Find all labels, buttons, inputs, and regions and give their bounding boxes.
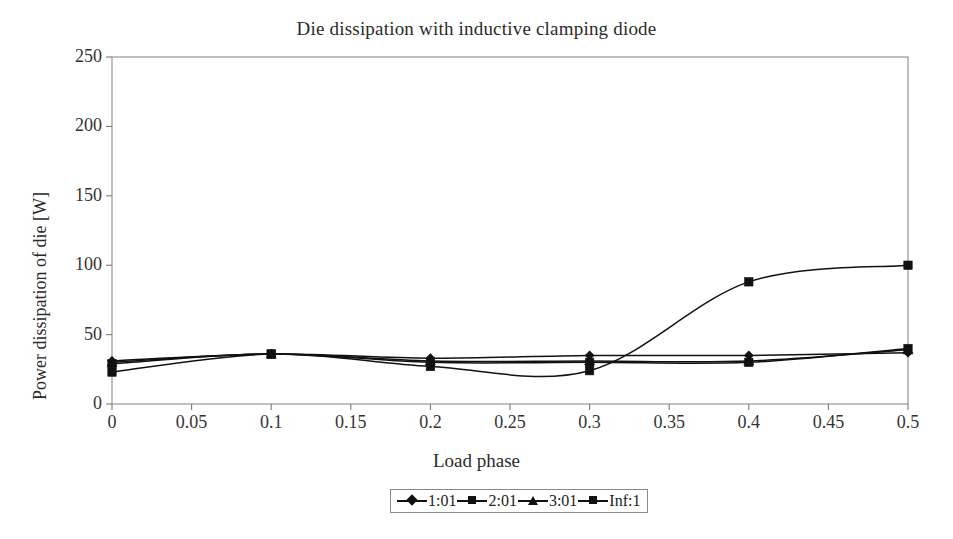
square-marker-icon: [578, 494, 608, 507]
y-tick-label: 50: [42, 325, 102, 343]
legend-entry[interactable]: 3:01: [518, 493, 578, 509]
series-layer: [107, 261, 913, 377]
y-axis-label: Power dissipation of die [W]: [30, 192, 51, 400]
x-tick-label: 0.15: [316, 412, 386, 433]
x-tick-label: 0.05: [157, 412, 227, 433]
x-tick-label: 0: [77, 412, 147, 433]
chart-legend: 1:012:013:01Inf:1: [390, 489, 648, 513]
legend-entry[interactable]: Inf:1: [578, 493, 641, 509]
y-tick-label: 100: [42, 255, 102, 273]
x-axis-label: Load phase: [0, 450, 953, 472]
y-tick-label: 200: [42, 116, 102, 134]
x-tick-label: 0.2: [395, 412, 465, 433]
square-marker-icon: [457, 494, 487, 507]
series-2-01: [108, 344, 912, 368]
triangle-marker-icon: [518, 494, 548, 507]
legend-glyph: [468, 496, 476, 504]
legend-label: 2:01: [487, 493, 517, 509]
x-tick-label: 0.35: [634, 412, 704, 433]
y-tick-label: 250: [42, 47, 102, 65]
legend-label: 1:01: [427, 493, 457, 509]
diamond-marker-icon: [397, 494, 427, 507]
chart-figure: Die dissipation with inductive clamping …: [0, 0, 953, 539]
x-tick-label: 0.5: [873, 412, 943, 433]
chart-title: Die dissipation with inductive clamping …: [0, 18, 953, 40]
legend-glyph: [589, 496, 597, 504]
y-tick-label: 150: [42, 186, 102, 204]
x-tick-label: 0.1: [236, 412, 306, 433]
x-tick-label: 0.4: [714, 412, 784, 433]
legend-glyph: [528, 496, 538, 505]
legend-entry[interactable]: 2:01: [457, 493, 517, 509]
x-tick-label: 0.25: [475, 412, 545, 433]
x-tick-label: 0.3: [555, 412, 625, 433]
x-tick-label: 0.45: [793, 412, 863, 433]
legend-glyph: [406, 494, 417, 505]
legend-label: Inf:1: [608, 493, 641, 509]
legend-label: 3:01: [548, 493, 578, 509]
y-tick-label: 0: [42, 394, 102, 412]
legend-entry[interactable]: 1:01: [397, 493, 457, 509]
